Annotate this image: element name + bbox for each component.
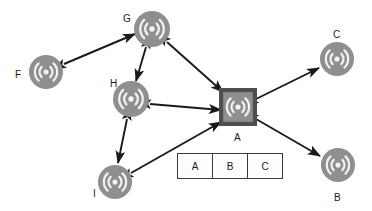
gateway-radio-node-icon (219, 88, 257, 126)
node-label-A: A (234, 133, 241, 143)
node-label-F: F (15, 70, 21, 80)
node-I[interactable] (97, 164, 133, 200)
radio-node-icon (319, 41, 355, 77)
routing-table: A B C (177, 153, 283, 179)
radio-node-icon (133, 10, 171, 48)
table-row: A B C (178, 154, 283, 179)
radio-node-icon (97, 164, 133, 200)
node-H[interactable] (112, 80, 150, 118)
node-label-G: G (123, 14, 131, 24)
radio-node-icon (320, 147, 356, 183)
node-C[interactable] (319, 41, 355, 77)
node-label-H: H (110, 79, 117, 89)
radio-node-icon (28, 54, 64, 90)
node-G[interactable] (133, 10, 171, 48)
node-A[interactable] (219, 88, 257, 126)
node-label-C: C (333, 30, 340, 40)
node-layer: G F H (0, 0, 372, 211)
table-cell-A[interactable]: A (178, 154, 213, 179)
node-label-I: I (93, 189, 96, 199)
table-cell-C[interactable]: C (248, 154, 283, 179)
radio-node-icon (112, 80, 150, 118)
node-F[interactable] (28, 54, 64, 90)
table-cell-B[interactable]: B (213, 154, 248, 179)
network-topology-diagram: G F H (0, 0, 372, 211)
node-B[interactable] (320, 147, 356, 183)
node-label-B: B (334, 193, 341, 203)
